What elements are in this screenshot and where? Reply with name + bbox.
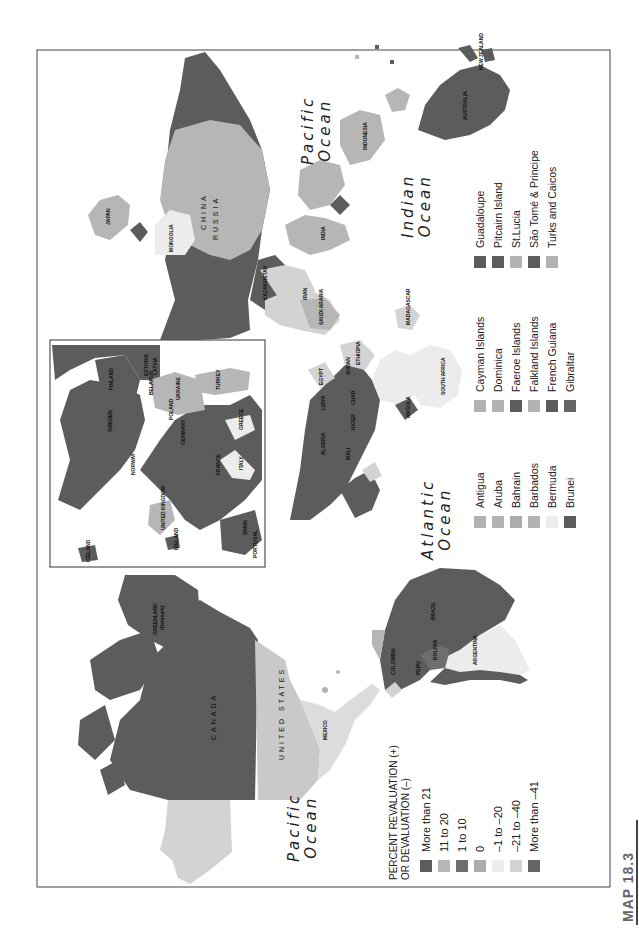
region-kiribati [375, 45, 379, 49]
country-label-libya: LIBYA [320, 395, 326, 410]
territory-falkland-islands: Falkland Islands [528, 316, 540, 412]
territory-dominica: Dominica [492, 348, 504, 412]
legend-swatch [474, 860, 486, 872]
legend-label: 1 to 10 [456, 818, 468, 852]
legend-label: Brunei [564, 478, 576, 508]
ocean-label-line: Ocean [437, 479, 454, 560]
legend-title-line1: PERCENT REVALUATION (+) [388, 745, 400, 880]
country-label-bolivia: BOLIVIA [432, 640, 438, 660]
legend-swatch [492, 256, 504, 268]
territory-brunei: Brunei [564, 478, 576, 528]
country-label-brazil: BRAZIL [430, 602, 436, 620]
country-label-iceland: ICELAND [85, 540, 91, 562]
ocean-label-line: Atlantic [420, 479, 437, 560]
legend-swatch [510, 516, 522, 528]
country-label-mali: MALI [345, 448, 351, 460]
country-label-niger: NIGER [350, 414, 356, 430]
country-label-norway: NORWAY [130, 453, 136, 475]
legend-swatch [564, 516, 576, 528]
country-label-china: CHINA [200, 193, 207, 230]
legend-item-more-than-minus41: More than –41 [528, 781, 540, 872]
legend-item-minus21-to-minus40: –21 to –40 [510, 800, 522, 872]
country-label-italy: ITALY [238, 456, 244, 470]
legend-swatch [546, 516, 558, 528]
country-label-germany: GERMANY [180, 419, 186, 445]
legend-swatch [510, 256, 522, 268]
country-label-finland: FINLAND [108, 368, 114, 390]
legend-label: Barbados [528, 463, 540, 508]
legend-label: More than 21 [420, 787, 432, 852]
territory-faeroe-islands: Faeroe Islands [510, 323, 522, 412]
legend-label: Aruba [492, 480, 504, 508]
legend-label: Antigua [474, 472, 486, 508]
legend-label: 0 [474, 846, 486, 852]
map-number-rule [636, 820, 638, 925]
territory-antigua: Antigua [474, 472, 486, 528]
legend-swatch [492, 860, 504, 872]
country-label-greenland-note: (Denmark) [159, 605, 165, 630]
region-guam [355, 55, 359, 59]
legend-swatch [528, 256, 540, 268]
legend-label: Faeroe Islands [510, 323, 522, 392]
territory-cayman-islands: Cayman Islands [474, 317, 486, 412]
territory-bermuda: Bermuda [546, 465, 558, 528]
ocean-label-line: Pacific [286, 793, 303, 862]
legend-swatch [438, 860, 450, 872]
country-label-saudi-arabia: SAUDI ARABIA [318, 289, 324, 325]
ocean-label-line: Ocean [417, 174, 434, 238]
legend-title: PERCENT REVALUATION (+) OR DEVALUATION (… [388, 745, 412, 880]
country-label-angola: ANGOLA [405, 396, 411, 418]
territory-bahrain: Bahrain [510, 472, 522, 528]
legend-label: Pitcairn Island [492, 182, 504, 248]
ocean-label-line: Ocean [317, 96, 334, 165]
country-label-india: INDIA [320, 226, 326, 240]
legend-label: São Tomé & Principe [528, 150, 540, 248]
country-label-algeria: ALGERIA [320, 433, 326, 456]
territory-barbados: Barbados [528, 463, 540, 528]
legend-swatch [510, 860, 522, 872]
country-label-canada: CANADA [210, 693, 217, 740]
legend-swatch [564, 400, 576, 412]
ocean-label-pacific-east: Pacific Ocean [300, 96, 334, 165]
country-label-russia: RUSSIA [212, 196, 219, 240]
legend-swatch [528, 516, 540, 528]
country-label-greenland: GREENLAND [152, 603, 158, 635]
legend-label: Bermuda [546, 465, 558, 508]
legend-label: Dominica [492, 348, 504, 392]
territory-pitcairn-island: Pitcairn Island [492, 182, 504, 268]
country-label-portugal: PORTUGAL [252, 530, 258, 558]
country-label-united-kingdom: UNITED KINGDOM [160, 486, 166, 530]
territory-french-guiana: French Guiana [546, 323, 558, 412]
legend-swatch [456, 860, 468, 872]
legend-label: Falkland Islands [528, 316, 540, 392]
legend-label: –21 to –40 [510, 800, 522, 852]
country-label-sudan: SUDAN [345, 357, 351, 375]
country-label-sweden: SWEDEN [107, 410, 113, 432]
country-label-ukraine: UKRAINE [175, 377, 181, 400]
territory-sao-tome-principe: São Tomé & Principe [528, 150, 540, 268]
country-label-colombia: COLOMBIA [390, 648, 396, 675]
country-label-iran: IRAN [302, 288, 308, 300]
ocean-label-indian: Indian Ocean [400, 174, 434, 238]
legend-label: 11 to 20 [438, 813, 450, 852]
legend-title-line2: OR DEVALUATION (–) [400, 745, 412, 880]
country-label-new-zealand: NEW ZEALAND [478, 33, 484, 70]
legend-item-0: 0 [474, 846, 486, 872]
country-label-japan: JAPAN [105, 208, 111, 225]
legend-label: Guadaloupe [474, 191, 486, 248]
region-nauru [390, 60, 394, 64]
ocean-label-line: Indian [400, 174, 417, 238]
legend-swatch [492, 516, 504, 528]
territory-guadaloupe: Guadaloupe [474, 191, 486, 268]
legend-label: French Guiana [546, 323, 558, 392]
legend-item-11-to-20: 11 to 20 [438, 813, 450, 872]
legend-label: Cayman Islands [474, 317, 486, 392]
country-label-france: FRANCE [215, 454, 221, 475]
country-label-mexico: MEXICO [322, 720, 328, 740]
country-label-egypt: EGYPT [318, 368, 324, 385]
legend-swatch [528, 860, 540, 872]
country-label-australia: AUSTRALIA [462, 91, 468, 120]
country-label-ireland: IRELAND [173, 528, 179, 550]
ocean-label-line: Pacific [300, 96, 317, 165]
country-label-peru: PERU [415, 661, 421, 675]
